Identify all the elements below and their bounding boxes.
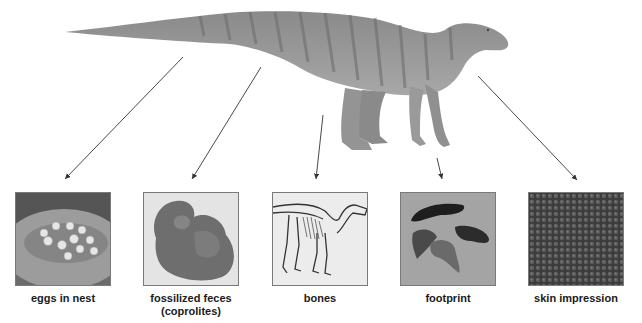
- eggs-in-nest-image: [16, 193, 111, 286]
- arrow-to-skin: [478, 76, 577, 180]
- caption-skin-label: skin impression: [506, 292, 642, 305]
- arrow-to-bones: [316, 115, 323, 179]
- caption-coprolites-sublabel: (coprolites): [121, 305, 261, 318]
- eggs-panel: [15, 192, 111, 286]
- caption-bones-label: bones: [250, 292, 390, 305]
- caption-footprint: footprint: [378, 292, 518, 305]
- caption-coprolites: fossilized feces (coprolites): [121, 292, 261, 318]
- skeleton-image: [273, 193, 368, 286]
- skin-impression-image: [529, 193, 624, 286]
- footprint-panel: [400, 192, 496, 286]
- caption-skin: skin impression: [506, 292, 642, 305]
- coprolite-image: [144, 193, 239, 286]
- arrow-to-eggs: [65, 57, 183, 179]
- footprint-image: [401, 193, 496, 286]
- arrow-to-coprolites: [192, 67, 261, 179]
- caption-footprint-label: footprint: [378, 292, 518, 305]
- coprolites-panel: [143, 192, 239, 286]
- caption-eggs-label: eggs in nest: [0, 292, 133, 305]
- caption-eggs: eggs in nest: [0, 292, 133, 305]
- bones-panel: [272, 192, 368, 286]
- skin-panel: [528, 192, 624, 286]
- caption-bones: bones: [250, 292, 390, 305]
- arrow-to-footprint: [437, 158, 442, 179]
- caption-coprolites-label: fossilized feces: [121, 292, 261, 305]
